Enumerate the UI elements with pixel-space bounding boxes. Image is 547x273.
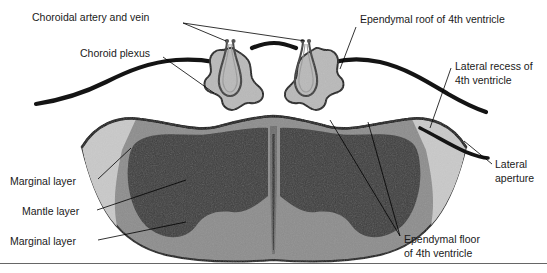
label-lateral-recess-line-1: Lateral recess of	[455, 60, 533, 72]
label-lateral-aperture-line-1: Lateral	[495, 158, 527, 170]
label-choroid-plexus: Choroid plexus	[80, 47, 150, 59]
label-choroidal-artery-and-vein: Choroidal artery and vein	[32, 11, 149, 23]
choroid-plexus-left-body	[204, 48, 263, 110]
figure-canvas: Choroidal artery and vein Choroid plexus…	[0, 0, 547, 273]
leader-lateral-recess	[430, 68, 451, 128]
label-marginal-layer-lower: Marginal layer	[10, 235, 76, 247]
label-mantle-layer: Mantle layer	[22, 205, 80, 217]
ependymal-roof-left-limb	[36, 60, 214, 104]
anatomy-diagram: Choroidal artery and vein Choroid plexus…	[0, 0, 547, 273]
label-ependymal-roof-of-4th-ventricle: Ependymal roof of 4th ventricle	[360, 13, 505, 25]
label-marginal-layer-upper: Marginal layer	[10, 175, 76, 187]
choroidal-vessel-left-stalk-top2	[231, 39, 235, 43]
ependymal-roof-midspan	[252, 43, 296, 48]
leader-choroidal-artery-and-vein-b	[183, 23, 305, 41]
label-ependymal-floor-line-2: of 4th ventricle	[404, 247, 472, 259]
choroid-plexus-right-body	[285, 48, 344, 110]
leader-choroidal-artery-and-vein-a	[183, 23, 226, 41]
label-lateral-recess-line-2: 4th ventricle	[455, 74, 512, 86]
label-lateral-aperture-line-2: aperture	[495, 172, 534, 184]
choroid-plexus-left	[204, 39, 263, 110]
choroid-plexus-right	[285, 39, 344, 110]
label-ependymal-floor-line-1: Ependymal floor	[404, 233, 480, 245]
choroidal-vessel-right-stalk-top	[307, 39, 311, 43]
leader-ependymal-roof	[340, 27, 356, 69]
